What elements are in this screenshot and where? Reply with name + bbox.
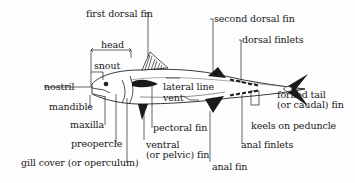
ventral-fin	[138, 104, 148, 120]
label-lateral-line: lateral line	[163, 82, 214, 92]
label-snout: snout	[94, 61, 120, 71]
eye	[104, 82, 109, 87]
label-keels-on-peduncle: keels on peduncle	[251, 121, 336, 131]
label-ventral-fin-line2: (or pelvic) fin	[146, 150, 209, 160]
label-anal-finlets: anal finlets	[241, 140, 293, 150]
label-second-dorsal-fin: second dorsal fin	[214, 14, 295, 24]
label-vent: vent	[163, 93, 184, 103]
label-forked-tail-line2: (or caudal) fin	[277, 100, 344, 110]
label-dorsal-finlets: dorsal finlets	[242, 35, 304, 45]
label-gill-cover: gill cover (or operculum)	[21, 158, 139, 168]
label-first-dorsal-fin: first dorsal fin	[86, 9, 153, 19]
label-maxilla: maxilla	[70, 120, 104, 130]
fish-anatomy-diagram: first dorsal fin head snout nostril mand…	[0, 0, 355, 183]
label-pectoral-fin: pectoral fin	[153, 123, 207, 133]
label-preopercle: preopercle	[71, 139, 122, 149]
anal-fin	[205, 96, 224, 113]
label-nostril: nostril	[44, 82, 74, 92]
label-anal-fin: anal fin	[212, 162, 247, 172]
label-head: head	[101, 40, 124, 50]
label-mandible: mandible	[49, 102, 93, 112]
